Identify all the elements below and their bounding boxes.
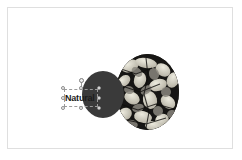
resize-handle-top-left[interactable]	[61, 86, 65, 90]
slide-canvas[interactable]: Natural	[7, 7, 233, 149]
slide-editor-root: Natural	[0, 0, 242, 160]
resize-handle-top-right[interactable]	[97, 86, 101, 90]
resize-handle-middle-right[interactable]	[97, 96, 101, 100]
resize-handle-bottom-right[interactable]	[97, 106, 101, 110]
resize-handle-bottom-left[interactable]	[61, 106, 65, 110]
natural-text-label: Natural	[65, 93, 95, 103]
rotate-handle[interactable]	[79, 78, 84, 83]
foliage-photo-circle[interactable]	[116, 54, 179, 130]
resize-handle-top-center[interactable]	[79, 86, 83, 90]
resize-handle-bottom-center[interactable]	[79, 106, 83, 110]
natural-text-box[interactable]: Natural	[64, 89, 98, 107]
resize-handle-middle-left[interactable]	[61, 96, 65, 100]
foliage-photo-image	[116, 54, 179, 130]
